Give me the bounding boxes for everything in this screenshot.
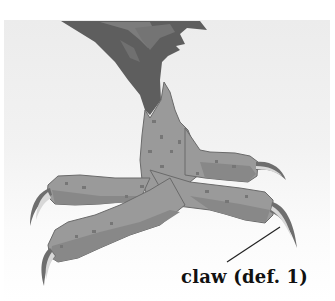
bird-foot-illustration (0, 0, 335, 301)
toe-upper-right (185, 128, 258, 182)
callout-leader-line (227, 227, 280, 262)
feathers (61, 21, 207, 115)
claw-callout-label: claw (def. 1) (181, 266, 308, 287)
